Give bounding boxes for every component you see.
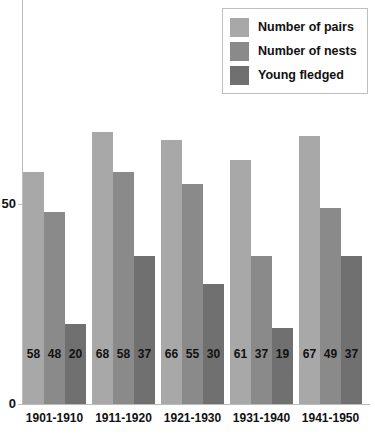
x-axis-category-label: 1931-1940 — [222, 411, 301, 425]
bar-value-label: 66 — [161, 348, 182, 360]
bar[interactable] — [320, 208, 341, 404]
y-tick-0: 0 — [0, 397, 16, 410]
x-axis-category-label: 1941-1950 — [291, 411, 370, 425]
legend: Number of pairs Number of nests Young fl… — [222, 8, 368, 94]
bar-chart: 50 0 584820685837665530613719674937 Numb… — [0, 0, 375, 444]
legend-item-young-fledged[interactable]: Young fledged — [230, 63, 361, 87]
x-axis-category-label: 1901-1910 — [15, 411, 94, 425]
bar-value-label: 55 — [182, 348, 203, 360]
y-tick-mark-50 — [18, 204, 22, 205]
x-axis-line — [22, 404, 370, 405]
bar-value-label: 30 — [203, 348, 224, 360]
bar-group: 584820 — [23, 0, 86, 404]
bar-value-label: 67 — [299, 348, 320, 360]
y-tick-label-0: 0 — [9, 397, 16, 410]
legend-swatch-number-of-pairs — [230, 18, 249, 37]
y-tick-50: 50 — [0, 197, 16, 210]
bar[interactable] — [182, 184, 203, 404]
bar-value-label: 37 — [341, 348, 362, 360]
x-axis-category-label: 1921-1930 — [153, 411, 232, 425]
bar[interactable] — [230, 160, 251, 404]
y-tick-label-50: 50 — [2, 197, 16, 210]
bar[interactable] — [203, 284, 224, 404]
bar-value-label: 58 — [23, 348, 44, 360]
bar[interactable] — [44, 212, 65, 404]
y-tick-mark-0 — [18, 404, 22, 405]
bar-value-label: 37 — [251, 348, 272, 360]
bar[interactable] — [161, 140, 182, 404]
bar[interactable] — [134, 256, 155, 404]
bar[interactable] — [272, 328, 293, 404]
legend-label-number-of-nests: Number of nests — [258, 44, 357, 58]
bar-value-label: 37 — [134, 348, 155, 360]
legend-swatch-young-fledged — [230, 66, 249, 85]
legend-label-young-fledged: Young fledged — [258, 68, 344, 82]
bar[interactable] — [341, 256, 362, 404]
bar-group: 665530 — [161, 0, 224, 404]
bar-value-label: 58 — [113, 348, 134, 360]
bar-value-label: 48 — [44, 348, 65, 360]
legend-swatch-number-of-nests — [230, 42, 249, 61]
bar[interactable] — [92, 132, 113, 404]
bar-value-label: 20 — [65, 348, 86, 360]
legend-item-number-of-nests[interactable]: Number of nests — [230, 39, 361, 63]
legend-item-number-of-pairs[interactable]: Number of pairs — [230, 15, 361, 39]
bar-value-label: 68 — [92, 348, 113, 360]
bar[interactable] — [65, 324, 86, 404]
bar[interactable] — [251, 256, 272, 404]
bar[interactable] — [23, 172, 44, 404]
bar[interactable] — [299, 136, 320, 404]
bar-value-label: 19 — [272, 348, 293, 360]
bar-group: 685837 — [92, 0, 155, 404]
legend-label-number-of-pairs: Number of pairs — [258, 20, 354, 34]
x-axis-category-label: 1911-1920 — [84, 411, 163, 425]
bar-value-label: 61 — [230, 348, 251, 360]
bar[interactable] — [113, 172, 134, 404]
bar-value-label: 49 — [320, 348, 341, 360]
